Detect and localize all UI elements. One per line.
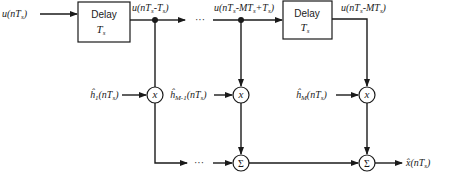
- tap-1-signal: u(nTs-Ts): [132, 2, 169, 15]
- coef-m-minus-1-label: ĥM-1(nTs): [170, 88, 207, 102]
- svg-text:Σ: Σ: [238, 158, 244, 169]
- multiplier-3: x: [359, 87, 375, 103]
- delay-block-1: Delay Ts: [78, 2, 130, 42]
- top-ellipsis: ···: [195, 14, 205, 25]
- svg-text:x: x: [152, 88, 158, 100]
- coef-1-label: ĥ1(nTs): [90, 88, 119, 102]
- delay-block-1-label: Delay: [91, 9, 117, 20]
- delay-block-2: Delay Ts: [283, 1, 332, 39]
- summer-1: Σ: [233, 155, 249, 171]
- svg-text:x: x: [238, 88, 244, 100]
- bottom-ellipsis: ···: [194, 157, 204, 168]
- output-label: x̂(nTs): [405, 157, 431, 170]
- input-label: u(nTs): [2, 8, 28, 21]
- tap-2-signal: u(nTs-MTs+Ts): [214, 2, 275, 15]
- tap-3-signal: u(nTs-MTs): [341, 2, 387, 15]
- delay-block-2-label: Delay: [294, 8, 320, 19]
- summer-2: Σ: [359, 155, 375, 171]
- multiplier-1: x: [147, 87, 163, 103]
- wire-mult1-out: [155, 103, 187, 163]
- coef-m-label: ĥM(nTs): [296, 88, 327, 102]
- multiplier-2: x: [233, 87, 249, 103]
- svg-text:x: x: [364, 88, 370, 100]
- fir-filter-diagram: u(nTs) Delay Ts u(nTs-Ts) ··· u(nTs-MTs+…: [0, 0, 455, 182]
- svg-text:Σ: Σ: [364, 158, 370, 169]
- wire-delay2-out: [332, 19, 367, 86]
